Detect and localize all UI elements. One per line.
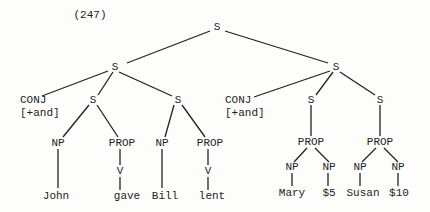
example-number: (247) xyxy=(73,10,106,21)
node-r1-np1: NP xyxy=(285,162,298,173)
node-right-s1: S xyxy=(308,95,315,106)
syntax-tree-diagram: (247) S S S CONJ [+and] S S CONJ [+and] … xyxy=(0,0,430,212)
node-l1-np: NP xyxy=(51,138,64,149)
leaf-gave: gave xyxy=(114,191,140,202)
node-left-conj-feature: [+and] xyxy=(20,108,60,119)
node-l1-prop: PROP xyxy=(109,138,135,149)
node-left-s1: S xyxy=(90,95,97,106)
node-l2-np: NP xyxy=(155,138,168,149)
node-right-s2: S xyxy=(377,95,384,106)
node-left-conj: CONJ xyxy=(20,95,46,106)
node-r1-prop: PROP xyxy=(298,137,324,148)
leaf-ten-dollars: $10 xyxy=(389,188,409,199)
leaf-bill: Bill xyxy=(152,191,178,202)
node-right-s: S xyxy=(333,62,340,73)
leaf-mary: Mary xyxy=(279,188,305,199)
node-right-conj-feature: [+and] xyxy=(225,108,265,119)
node-r1-np2: NP xyxy=(322,162,335,173)
node-root-s: S xyxy=(214,22,221,33)
node-r2-np1: NP xyxy=(353,162,366,173)
node-r2-prop: PROP xyxy=(367,137,393,148)
node-left-s2: S xyxy=(175,95,182,106)
leaf-john: John xyxy=(43,191,69,202)
node-l1-v: V xyxy=(117,166,124,177)
node-l2-prop: PROP xyxy=(197,138,223,149)
node-l2-v: V xyxy=(205,166,212,177)
leaf-lent: lent xyxy=(199,191,225,202)
leaf-five-dollars: $5 xyxy=(322,188,335,199)
node-r2-np2: NP xyxy=(391,162,404,173)
node-left-s: S xyxy=(112,62,119,73)
node-right-conj: CONJ xyxy=(225,95,251,106)
leaf-susan: Susan xyxy=(346,188,379,199)
